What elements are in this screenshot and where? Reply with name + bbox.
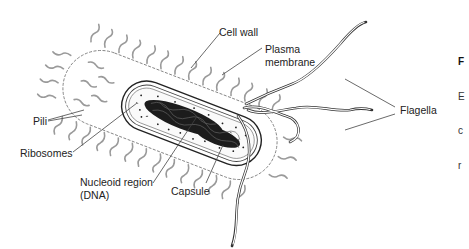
caption-line-1: F [458,56,464,67]
figure-caption-fragment: F E c r [458,33,469,194]
cell-wall-label: Cell wall [219,26,258,38]
pili-label: Pili [33,115,47,127]
caption-line-4: r [458,160,469,172]
nucleoid-region-label-line1: Nucleoid region [80,176,153,188]
flagella-label: Flagella [400,104,437,116]
nucleoid-region-label-line2: (DNA) [80,189,109,201]
plasma-membrane-label-line2: membrane [265,56,315,68]
caption-line-2: E [458,91,469,103]
capsule-label: Capsule [171,185,210,197]
plasma-membrane-label-line1: Plasma [265,43,300,55]
caption-line-3: c [458,125,469,137]
ribosomes-label: Ribosomes [20,147,73,159]
bacterial-cell-diagram: Cell wall Plasma membrane Pili Ribosomes… [0,0,469,249]
